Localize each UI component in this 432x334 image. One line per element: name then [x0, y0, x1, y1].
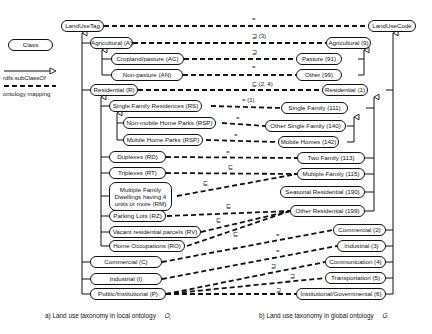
local-caption-text: a) Land use taxonomy in local ontology: [45, 312, 156, 319]
global-node-commercial[interactable]: Commercial (2): [333, 224, 386, 236]
local-node-home-occupations[interactable]: Home Occupations (RO): [109, 240, 185, 252]
global-node-seasonal-residential[interactable]: Seasonal Residential (190): [280, 186, 365, 198]
mapping-label-communication: ⊒: [271, 262, 276, 269]
legend-class-sample: Class: [8, 39, 53, 51]
local-node-vacant-residential-parcels[interactable]: Vacant residential parcels (RV): [109, 226, 201, 238]
legend-mapping-label: ontology mapping: [3, 91, 50, 97]
global-caption-symbol: G: [383, 312, 388, 319]
local-node-industrial[interactable]: Industrial (I): [90, 273, 162, 285]
local-node-public-institutional[interactable]: Public/Institutional (P): [90, 288, 166, 300]
global-node-communication[interactable]: Communication (4): [325, 256, 386, 268]
local-node-single-family-residences[interactable]: Single Family Residences (RS): [109, 100, 202, 112]
mapping-label-vacant: ⊑: [216, 216, 221, 223]
global-node-residential[interactable]: Residential (1): [322, 84, 368, 96]
global-node-other-single-family[interactable]: Other Single Family (140): [265, 120, 346, 132]
mapping-label-sfr: = (1): [242, 97, 255, 103]
global-caption-text: b) Land use taxonomy in global ontology: [259, 312, 374, 319]
local-node-landusetag[interactable]: LandUseTag: [61, 20, 104, 32]
global-node-institutional-governmental[interactable]: Institutional/Governmental (6): [296, 288, 386, 300]
land-use-ontology-mapping-diagram: Class rdfs:subClassOf ontology mapping L…: [0, 0, 432, 334]
local-node-duplexes[interactable]: Duplexes (RD): [109, 151, 166, 163]
global-node-industrial[interactable]: Industrial (3): [337, 240, 386, 252]
global-node-agricultural[interactable]: Agricultural (9): [326, 37, 371, 49]
mapping-label-nonmobile: =: [236, 115, 240, 121]
local-caption: a) Land use taxonomy in local ontology O…: [45, 312, 171, 321]
legend-subclass-label: rdfs:subClassOf: [3, 75, 46, 81]
mapping-label-industrial: =: [276, 248, 280, 254]
mapping-label-triplexes: ⊑: [228, 163, 233, 170]
local-node-residential[interactable]: Residential (R): [90, 84, 138, 96]
mapping-label-institutional: ⊒: [276, 286, 281, 293]
local-node-multiple-family-dwellings[interactable]: Multiple Family Dwellings having 4 units…: [109, 182, 172, 211]
global-node-pasture[interactable]: Pasture (91): [296, 53, 342, 65]
mapping-label-transportation: ⊒: [290, 272, 295, 279]
mapping-label-multiple: ⊑: [203, 179, 208, 186]
global-node-multiple-family[interactable]: Multiple Family (115): [297, 168, 365, 180]
mapping-label-mobile: =: [234, 132, 238, 138]
mapping-label-agricultural: ⊒ (3): [252, 32, 266, 39]
mapping-label-residential: ⊑ (2, 4): [252, 80, 273, 87]
mapping-label-nonpasture: =: [252, 64, 256, 70]
mapping-label-cropland: ⊒: [252, 48, 257, 55]
global-node-other-residential[interactable]: Other Residential (199): [290, 205, 365, 217]
local-node-agricultural[interactable]: Agricultural (A): [90, 37, 133, 49]
global-node-mobile-homes[interactable]: Mobile Homes (142): [278, 136, 339, 148]
global-caption: b) Land use taxonomy in global ontology …: [259, 312, 388, 319]
global-node-transportation[interactable]: Transportation (5): [325, 272, 386, 284]
local-node-nonmobile-home-parks[interactable]: Non-mobile Home Parks (RSP): [123, 117, 216, 129]
global-node-single-family[interactable]: Single Family (111): [281, 102, 348, 114]
mapping-label-root: =: [252, 16, 256, 22]
local-node-mobile-home-parks[interactable]: Mobile Home Parks (RSP): [123, 134, 203, 146]
global-node-other[interactable]: Other (99): [296, 69, 342, 81]
global-node-landusecode[interactable]: LandUseCode: [368, 20, 416, 32]
global-node-two-family[interactable]: Two Family (113): [297, 152, 365, 164]
local-node-cropland[interactable]: Cropland/pasture (AC): [111, 53, 184, 65]
mapping-label-commercial: =: [276, 232, 280, 238]
local-node-nonpasture[interactable]: Non-pasture (AN): [111, 69, 183, 81]
mapping-label-homeocc: ⊑: [233, 230, 238, 237]
local-caption-subscript: l: [170, 316, 171, 321]
local-node-triplexes[interactable]: Triplexes (RT): [109, 167, 166, 179]
local-node-parking-lots[interactable]: Parking Lots (RZ): [109, 210, 166, 222]
mapping-label-parking: ⊑: [226, 202, 231, 209]
local-node-commercial[interactable]: Commercial (C): [90, 256, 162, 268]
mapping-label-duplexes: =: [226, 149, 230, 155]
